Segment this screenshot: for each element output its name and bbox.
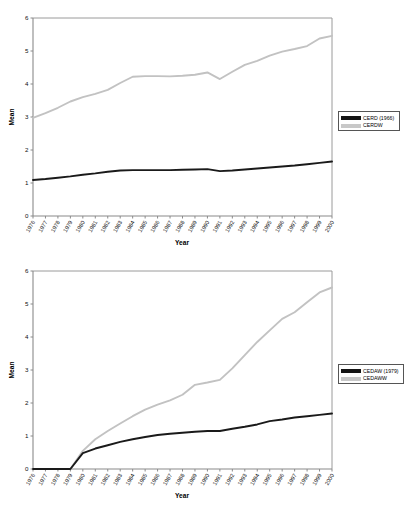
x-tick-label: 1998	[299, 473, 310, 487]
x-tick-label: 1982	[99, 220, 110, 234]
legend-swatch-dark-icon	[341, 369, 361, 373]
y-tick-label: 5	[25, 47, 29, 54]
x-tick-label: 1991	[212, 473, 223, 487]
x-tick-label: 1996	[274, 473, 285, 487]
chart-cedaw: 0123456 19761977197819791980198119821983…	[0, 253, 403, 507]
x-tick-label: 1999	[311, 220, 322, 234]
x-tick-label: 1993	[236, 220, 247, 234]
x-tick-label: 1987	[162, 473, 173, 487]
x-axis-title: Year	[175, 492, 189, 499]
x-tick-label: 1999	[311, 473, 322, 487]
x-tick-label: 1976	[25, 473, 36, 487]
x-tick-label: 1993	[236, 473, 247, 487]
x-tick-label: 1981	[87, 473, 98, 487]
legend-label: CEDAW (1979)	[363, 368, 399, 375]
x-tick-label: 1983	[112, 473, 123, 487]
legend-cerd: CERD (1966) CERDW	[338, 111, 400, 131]
legend-swatch-light-icon	[341, 124, 361, 128]
x-tick-label: 1977	[37, 220, 48, 234]
y-tick-label: 3	[25, 366, 29, 373]
x-tick-label: 1996	[274, 220, 285, 234]
chart-cerd: 0123456 19761977197819791980198119821983…	[0, 0, 403, 254]
y-tick-label: 6	[25, 267, 29, 274]
x-tick-label: 1978	[50, 473, 61, 487]
x-tick-label: 1984	[124, 473, 135, 487]
y-tick-label: 4	[25, 80, 29, 87]
x-tick-label: 1982	[99, 473, 110, 487]
x-tick-label: 1985	[137, 473, 148, 487]
legend-swatch-dark-icon	[341, 116, 361, 120]
x-tick-label: 1979	[62, 220, 73, 234]
series-line-cedaw	[33, 414, 332, 469]
x-tick-label: 2000	[324, 473, 335, 487]
y-tick-label: 2	[25, 399, 29, 406]
x-tick-label: 2000	[324, 220, 335, 234]
x-axis-title: Year	[175, 239, 189, 246]
x-tick-label: 1995	[261, 220, 272, 234]
cerd-x-ticks: 1976197719781979198019811982198319841985…	[25, 216, 335, 233]
legend-item: CEDAW (1979)	[341, 368, 401, 375]
cerd-plot-frame	[33, 18, 332, 216]
x-tick-label: 1991	[212, 220, 223, 234]
cerd-series	[33, 36, 332, 180]
y-tick-label: 4	[25, 333, 29, 340]
cedaw-x-ticks: 1976197719781979198019811982198319841985…	[25, 469, 335, 486]
x-tick-label: 1992	[224, 220, 235, 234]
x-tick-label: 1987	[162, 220, 173, 234]
x-tick-label: 1986	[149, 220, 160, 234]
series-line-cerd	[33, 162, 332, 180]
x-tick-label: 1989	[187, 220, 198, 234]
x-tick-label: 1994	[249, 473, 260, 487]
x-tick-label: 1990	[199, 473, 210, 487]
y-tick-label: 1	[25, 432, 29, 439]
x-tick-label: 1979	[62, 473, 73, 487]
x-tick-label: 1980	[74, 220, 85, 234]
y-tick-label: 5	[25, 300, 29, 307]
cerd-y-ticks: 0123456	[25, 14, 33, 219]
legend-swatch-light-icon	[341, 377, 361, 381]
x-tick-label: 1978	[50, 220, 61, 234]
y-tick-label: 6	[25, 14, 29, 21]
x-tick-label: 1995	[261, 473, 272, 487]
legend-label: CERDW	[363, 122, 383, 129]
y-tick-label: 2	[25, 146, 29, 153]
x-tick-label: 1985	[137, 220, 148, 234]
y-tick-label: 0	[25, 212, 29, 219]
x-tick-label: 1988	[174, 473, 185, 487]
x-tick-label: 1976	[25, 220, 36, 234]
series-line-cerdw	[33, 36, 332, 118]
x-tick-label: 1983	[112, 220, 123, 234]
y-tick-label: 0	[25, 465, 29, 472]
x-tick-label: 1997	[286, 473, 297, 487]
x-tick-label: 1994	[249, 220, 260, 234]
x-tick-label: 1984	[124, 220, 135, 234]
x-tick-label: 1981	[87, 220, 98, 234]
x-tick-label: 1998	[299, 220, 310, 234]
legend-label: CERD (1966)	[363, 115, 394, 122]
x-tick-label: 1992	[224, 473, 235, 487]
x-tick-label: 1997	[286, 220, 297, 234]
legend-item: CERDW	[341, 122, 397, 129]
x-tick-label: 1986	[149, 473, 160, 487]
cedaw-y-ticks: 0123456	[25, 267, 33, 472]
x-tick-label: 1977	[37, 473, 48, 487]
y-axis-title: Mean	[8, 109, 15, 126]
y-tick-label: 1	[25, 179, 29, 186]
x-tick-label: 1990	[199, 220, 210, 234]
x-tick-label: 1980	[74, 473, 85, 487]
series-line-cedaww	[33, 288, 332, 470]
y-axis-title: Mean	[8, 362, 15, 379]
x-tick-label: 1989	[187, 473, 198, 487]
legend-label: CEDAWW	[363, 375, 387, 382]
cedaw-series	[33, 288, 332, 470]
legend-item: CERD (1966)	[341, 115, 397, 122]
legend-item: CEDAWW	[341, 375, 401, 382]
cedaw-plot-frame	[33, 271, 332, 469]
x-tick-label: 1988	[174, 220, 185, 234]
legend-cedaw: CEDAW (1979) CEDAWW	[338, 364, 404, 384]
y-tick-label: 3	[25, 113, 29, 120]
